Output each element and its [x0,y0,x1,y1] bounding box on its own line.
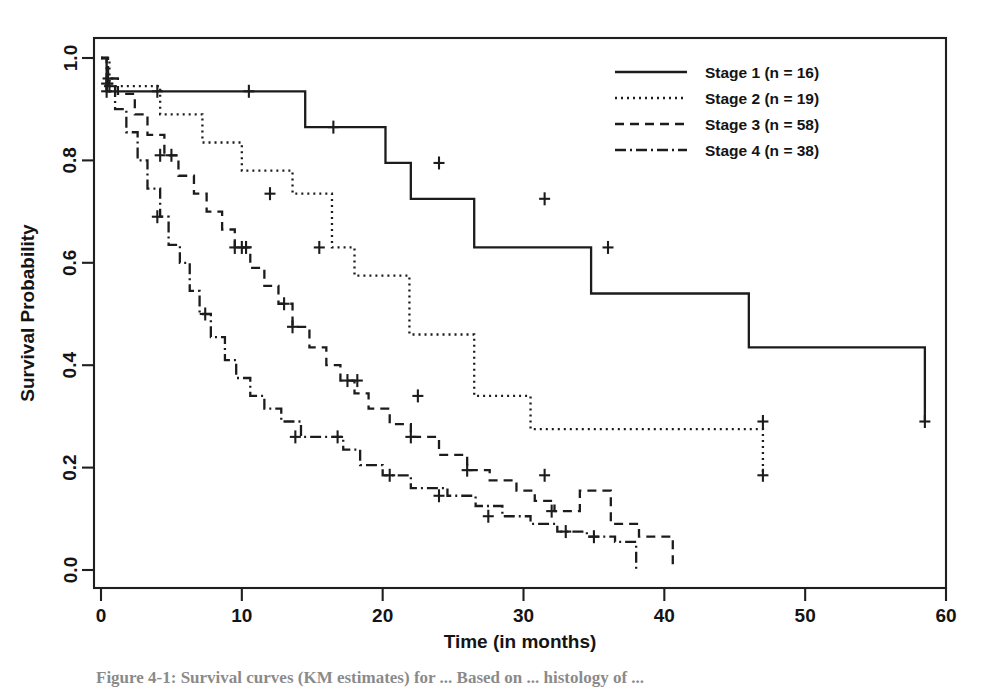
kaplan-meier-plot: 0.00.20.40.60.81.0 0102030405060 Stage 1… [0,0,984,660]
survival-curves-layer [101,58,925,570]
x-tick-label: 60 [935,605,956,626]
censor-mark [287,320,298,333]
censor-mark [384,469,395,482]
survival-curve-stage-4 [101,58,636,570]
censor-mark [539,192,550,205]
legend-label-stage-2: Stage 2 (n = 19) [705,90,819,107]
y-tick-label: 0.8 [60,147,81,173]
censor-mark [166,149,177,162]
censor-mark [265,187,276,200]
censor-mark [434,489,445,502]
censor-mark [412,389,423,402]
censor-mark [352,374,363,387]
survival-curve-figure: 0.00.20.40.60.81.0 0102030405060 Stage 1… [0,0,984,688]
censor-mark [405,430,416,443]
censor-mark [279,297,290,310]
y-tick-label: 0.6 [60,250,81,276]
censor-mark [603,241,614,254]
censor-mark [434,156,445,169]
x-tick-label: 20 [372,605,393,626]
censor-mark [462,464,473,477]
x-axis-ticks: 0102030405060 [96,588,957,626]
survival-curve-stage-1 [101,58,925,422]
y-tick-label: 1.0 [60,45,81,71]
censor-mark [332,430,343,443]
survival-curve-stage-3 [101,58,673,565]
x-tick-label: 10 [231,605,252,626]
censor-mark [919,415,930,428]
censor-mark [757,415,768,428]
y-tick-label: 0.0 [60,557,81,583]
censor-mark [560,525,571,538]
y-tick-label: 0.4 [60,352,81,379]
x-tick-label: 50 [795,605,816,626]
censor-mark [539,469,550,482]
legend-label-stage-3: Stage 3 (n = 58) [705,116,819,133]
censor-mark [290,430,301,443]
censor-mark [200,308,211,321]
figure-caption: Figure 4-1: Survival curves (KM estimate… [96,668,896,688]
y-axis-title: Survival Probability [17,224,38,402]
x-tick-label: 0 [96,605,107,626]
censor-mark [483,510,494,523]
legend-label-stage-1: Stage 1 (n = 16) [705,64,819,81]
censor-mark [328,121,339,134]
censor-mark [588,530,599,543]
y-tick-label: 0.2 [60,454,81,480]
censor-mark [243,85,254,98]
survival-curve-stage-2 [101,58,763,475]
x-tick-label: 30 [513,605,534,626]
y-axis-ticks: 0.00.20.40.60.81.0 [60,45,95,583]
x-tick-label: 40 [654,605,675,626]
censor-mark [342,374,353,387]
censor-mark [757,469,768,482]
legend-label-stage-4: Stage 4 (n = 38) [705,142,819,159]
x-axis-title: Time (in months) [444,631,597,652]
censor-mark [314,241,325,254]
chart-legend: Stage 1 (n = 16)Stage 2 (n = 19)Stage 3 … [615,64,819,159]
